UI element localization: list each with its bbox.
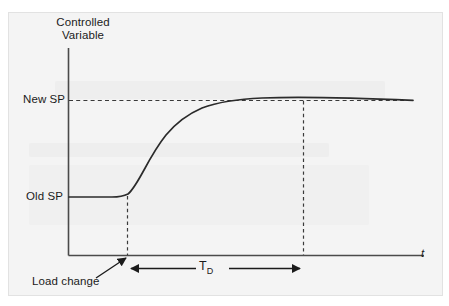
new-setpoint-label: New SP xyxy=(23,93,65,106)
dead-time-subscript: D xyxy=(207,266,214,276)
old-setpoint-label: Old SP xyxy=(26,190,63,203)
time-axis-label: t xyxy=(421,247,424,260)
dead-time-symbol: T xyxy=(199,259,207,273)
load-change-label: Load change xyxy=(32,275,100,288)
y-axis-label-line-2: Variable xyxy=(36,29,130,42)
y-axis-label: Controlled Variable xyxy=(36,16,130,42)
response-curve xyxy=(69,97,413,197)
figure-root: Controlled Variable New SP Old SP t Load… xyxy=(0,0,449,306)
dead-time-label: TD xyxy=(199,259,213,276)
load-change-arrow xyxy=(96,258,126,278)
y-axis-label-line-1: Controlled xyxy=(36,16,130,29)
plot-canvas xyxy=(0,0,449,306)
